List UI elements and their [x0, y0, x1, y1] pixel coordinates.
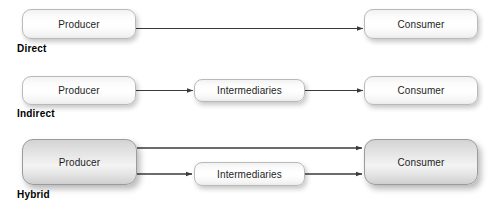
node-direct-producer[interactable]: Producer	[22, 9, 136, 39]
node-hybrid-producer[interactable]: Producer	[22, 139, 137, 185]
node-label: Producer	[58, 85, 99, 96]
node-label: Consumer	[398, 85, 445, 96]
node-indirect-intermediaries[interactable]: Intermediaries	[194, 79, 305, 102]
channel-structure-diagram: Producer Consumer Direct Producer Interm…	[0, 0, 499, 214]
row-label-hybrid: Hybrid	[17, 189, 50, 200]
row-label-indirect: Indirect	[17, 108, 55, 119]
row-label-direct: Direct	[17, 43, 47, 54]
node-indirect-producer[interactable]: Producer	[22, 76, 136, 105]
node-hybrid-consumer[interactable]: Consumer	[364, 139, 478, 185]
node-label: Producer	[58, 19, 99, 30]
node-indirect-consumer[interactable]: Consumer	[364, 76, 478, 105]
node-direct-consumer[interactable]: Consumer	[364, 9, 478, 39]
node-label: Intermediaries	[217, 169, 282, 180]
node-label: Consumer	[398, 157, 445, 168]
node-label: Intermediaries	[217, 85, 282, 96]
node-hybrid-intermediaries[interactable]: Intermediaries	[194, 162, 305, 186]
node-label: Consumer	[398, 19, 445, 30]
node-label: Producer	[59, 157, 100, 168]
